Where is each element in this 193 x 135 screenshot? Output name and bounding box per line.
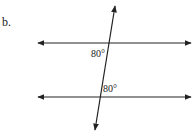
lower-angle-label: 80° [103, 83, 117, 94]
transversal-line [95, 6, 115, 130]
parallel-lines-diagram: 80° 80° [0, 0, 193, 135]
upper-angle-label: 80° [91, 48, 105, 59]
